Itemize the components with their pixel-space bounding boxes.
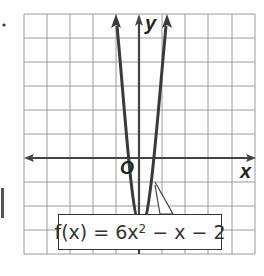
- y-axis-label: y: [145, 12, 156, 35]
- function-exponent: 2: [139, 222, 147, 236]
- callout-pointer: [155, 182, 173, 214]
- side-bar: [1, 188, 4, 218]
- function-label-box: f(x) = 6x2 − x − 2: [58, 214, 222, 250]
- bullet-dot: [2, 23, 5, 26]
- x-axis-label: x: [240, 160, 251, 183]
- function-suffix: − x − 2: [146, 221, 225, 243]
- function-prefix: f(x) = 6x: [54, 221, 138, 243]
- origin-label: O: [120, 158, 134, 179]
